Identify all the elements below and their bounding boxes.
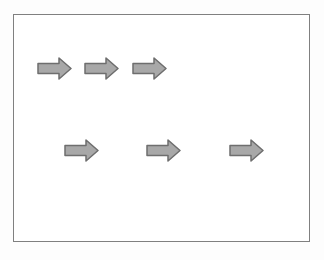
- figure-canvas: [0, 0, 324, 260]
- right-arrow-icon: [64, 139, 99, 162]
- right-arrow-icon: [146, 139, 181, 162]
- diagram-frame: [13, 14, 310, 242]
- right-arrow-icon: [229, 139, 264, 162]
- right-arrow-icon: [84, 57, 119, 80]
- right-arrow-icon: [132, 57, 167, 80]
- right-arrow-icon: [37, 57, 72, 80]
